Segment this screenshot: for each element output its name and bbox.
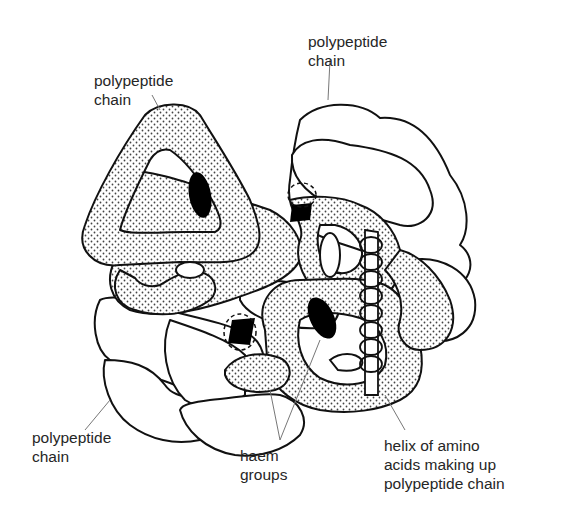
haemoglobin-diagram: polypeptide chain polypeptide chain poly… bbox=[0, 0, 573, 528]
label-haem-groups: haem groups bbox=[240, 446, 287, 484]
label-polypeptide-chain-top-right: polypeptide chain bbox=[308, 32, 387, 70]
label-polypeptide-chain-bottom-left: polypeptide chain bbox=[32, 428, 111, 466]
label-polypeptide-chain-top-left: polypeptide chain bbox=[94, 71, 173, 109]
label-helix-of-amino-acids: helix of amino acids making up polypepti… bbox=[384, 436, 505, 493]
